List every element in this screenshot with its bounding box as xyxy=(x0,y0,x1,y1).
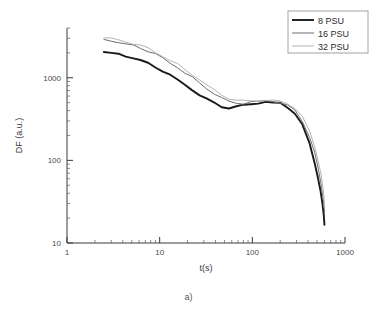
y-tick-label: 1000 xyxy=(43,74,61,83)
series-line-32-psu xyxy=(104,38,325,207)
x-axis-label: t(s) xyxy=(200,263,213,273)
figure-caption: a) xyxy=(0,292,377,302)
series-line-16-psu xyxy=(104,39,325,212)
y-axis-label: DF (a.u.) xyxy=(14,118,24,154)
series-line-8-psu xyxy=(104,52,325,225)
y-tick-label: 100 xyxy=(48,156,62,165)
x-tick-label: 100 xyxy=(246,248,260,257)
x-tick-label: 1000 xyxy=(336,248,354,257)
figure-panel: 1101001000101001000t(s)DF (a.u.) 8 PSU16… xyxy=(0,0,377,324)
chart-svg: 1101001000101001000t(s)DF (a.u.) xyxy=(0,0,377,324)
y-tick-label: 10 xyxy=(52,239,61,248)
x-tick-label: 1 xyxy=(65,248,70,257)
x-tick-label: 10 xyxy=(155,248,164,257)
